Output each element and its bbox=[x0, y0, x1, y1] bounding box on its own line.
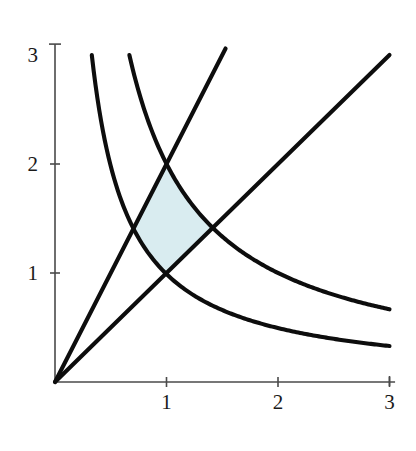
curve-group bbox=[55, 48, 390, 382]
x-tick-label-2: 2 bbox=[273, 390, 284, 414]
x-tick-label-1: 1 bbox=[161, 390, 172, 414]
y-tick-label-2: 2 bbox=[28, 152, 39, 176]
figure-root: 123123 bbox=[0, 0, 416, 451]
y-tick-label-1: 1 bbox=[28, 261, 39, 285]
curve-y-x bbox=[55, 55, 390, 382]
plot-canvas: 123123 bbox=[0, 0, 416, 451]
y-tick-label-3: 3 bbox=[28, 43, 39, 67]
x-tick-label-3: 3 bbox=[384, 390, 395, 414]
